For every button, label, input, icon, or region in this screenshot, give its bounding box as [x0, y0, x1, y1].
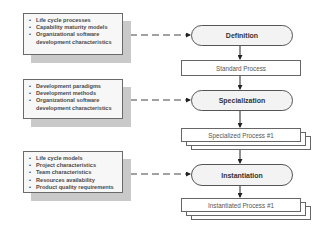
- standard-process-box: Standard Process: [181, 60, 301, 76]
- stage-label: Definition: [226, 32, 258, 39]
- instantiation-inputs-box: Life cycle models Project characteristic…: [23, 151, 123, 193]
- list-item: Development paradigms: [28, 83, 118, 90]
- list-item: Development methods: [28, 90, 118, 97]
- instantiation-inputs-list: Life cycle models Project characteristic…: [28, 155, 118, 191]
- list-item-continuation: development characteristics: [28, 105, 118, 112]
- definition-stage: Definition: [191, 25, 293, 46]
- list-item: Life cycle models: [28, 155, 118, 162]
- specialized-process-box: Specialized Process #1: [181, 128, 301, 142]
- stage-label: Instantiation: [221, 172, 263, 179]
- list-item: Capability maturity models: [28, 24, 118, 31]
- list-item: Product quality requirements: [28, 184, 118, 191]
- process-label: Specialized Process #1: [208, 132, 273, 139]
- stage-label: Specialization: [219, 97, 266, 104]
- list-item-continuation: development characteristics: [28, 39, 118, 46]
- list-item: Life cycle processes: [28, 17, 118, 24]
- list-item: Organizational software: [28, 97, 118, 104]
- specialization-inputs-box: Development paradigms Development method…: [23, 79, 123, 119]
- list-item: Organizational software: [28, 31, 118, 38]
- instantiation-stage: Instantiation: [191, 164, 293, 186]
- list-item: Resources availability: [28, 177, 118, 184]
- instantiated-process-box: Instantiated Process #1: [181, 198, 301, 212]
- definition-inputs-box: Life cycle processes Capability maturity…: [23, 13, 123, 55]
- specialization-stage: Specialization: [191, 90, 293, 111]
- process-label: Standard Process: [216, 65, 266, 72]
- list-item: Team characteristics: [28, 169, 118, 176]
- definition-inputs-list: Life cycle processes Capability maturity…: [28, 17, 118, 46]
- specialization-inputs-list: Development paradigms Development method…: [28, 83, 118, 112]
- list-item: Project characteristics: [28, 162, 118, 169]
- process-label: Instantiated Process #1: [208, 202, 274, 209]
